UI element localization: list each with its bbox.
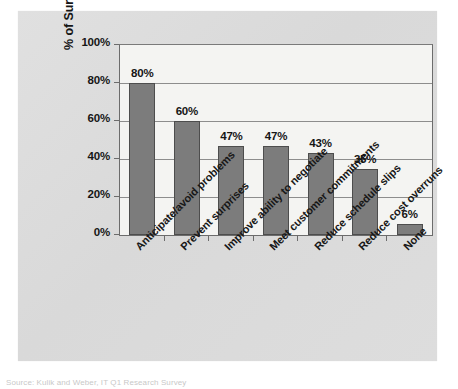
x-tick-mark: [342, 235, 343, 241]
bar-value-label: 47%: [261, 130, 291, 142]
y-tick-label: 100%: [81, 36, 110, 48]
x-tick-mark: [208, 235, 209, 241]
x-tick-mark: [253, 235, 254, 241]
chart-card: % of Survey Respondents 0%20%40%60%80%10…: [18, 11, 437, 361]
x-tick-mark: [297, 235, 298, 241]
y-tick-label: 40%: [88, 150, 110, 162]
y-tick-label: 20%: [88, 188, 110, 200]
x-tick-mark: [386, 235, 387, 241]
figure-container: % of Survey Respondents 0%20%40%60%80%10…: [0, 0, 458, 389]
source-caption: Source: Kulik and Weber, IT Q1 Research …: [6, 378, 306, 388]
bar-value-label: 60%: [172, 105, 202, 117]
bar-value-label: 80%: [127, 67, 157, 79]
y-tick-label: 60%: [88, 112, 110, 124]
bar-value-label: 47%: [216, 130, 246, 142]
y-tick-label: 80%: [88, 74, 110, 86]
plot-area: 80%60%47%47%43%35%6%: [119, 44, 433, 236]
y-tick-label: 0%: [94, 226, 110, 238]
bar: [129, 83, 155, 235]
y-axis-title: % of Survey Respondents: [62, 0, 78, 65]
gridline: [120, 121, 432, 122]
x-tick-mark: [164, 235, 165, 241]
gridline: [120, 83, 432, 84]
bar: [174, 121, 200, 235]
